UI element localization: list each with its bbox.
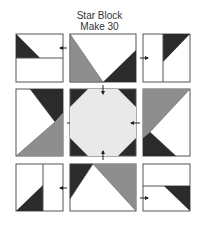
unit-top-center [70,34,136,82]
unit-bottom-center [70,164,136,211]
unit-middle-left [16,89,63,156]
unit-top-left [16,34,63,82]
unit-center [70,89,136,156]
unit-bottom-right [143,164,190,211]
unit-middle-right [143,89,190,156]
unit-bottom-left [16,164,63,211]
unit-top-right [143,34,190,82]
star-block-diagram [0,0,199,227]
